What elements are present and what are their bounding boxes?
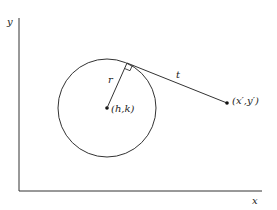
radius-label: r xyxy=(108,74,114,85)
external-point xyxy=(225,101,229,105)
external-point-label: (x′,y′) xyxy=(232,95,259,106)
x-axis-label: x xyxy=(252,195,258,206)
radius-line xyxy=(107,63,127,108)
tangent-label: t xyxy=(176,69,181,80)
tangent-diagram: y x (h,k) r t (x′,y′) xyxy=(0,0,277,210)
center-label: (h,k) xyxy=(111,103,135,114)
y-axis-label: y xyxy=(6,16,13,27)
